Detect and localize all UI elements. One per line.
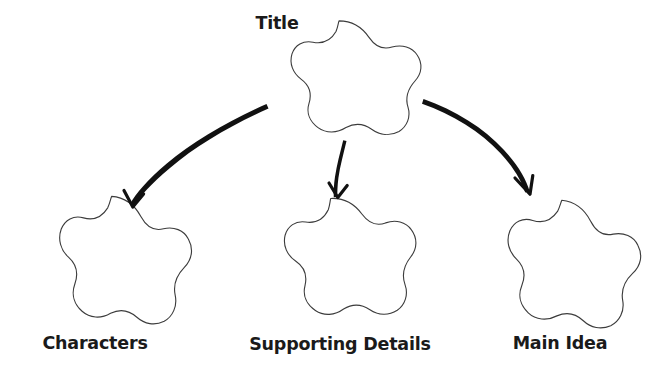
node-title[interactable]: Title — [255, 13, 421, 135]
arrow-title-to-main-idea — [422, 99, 533, 194]
cloud-shape-title — [291, 21, 421, 135]
arrow-head-supporting-details — [329, 183, 347, 198]
arrow-shaft-characters — [130, 104, 268, 206]
node-label-characters: Characters — [42, 333, 147, 353]
diagram-canvas: Title Characters Supporting Details Main… — [0, 0, 659, 368]
node-label-title: Title — [255, 13, 298, 33]
cloud-shape-characters — [54, 193, 195, 326]
cloud-shape-supporting-details — [282, 194, 419, 319]
node-label-supporting-details: Supporting Details — [249, 334, 431, 354]
arrow-title-to-supporting-details — [329, 140, 347, 197]
graphic-organizer-diagram: Title Characters Supporting Details Main… — [0, 0, 659, 368]
node-label-main-idea: Main Idea — [513, 333, 608, 353]
node-main-idea[interactable]: Main Idea — [500, 195, 646, 353]
arrow-title-to-characters — [124, 104, 269, 207]
node-characters[interactable]: Characters — [42, 193, 195, 353]
node-supporting-details[interactable]: Supporting Details — [249, 194, 431, 354]
cloud-shape-main-idea — [500, 195, 646, 331]
